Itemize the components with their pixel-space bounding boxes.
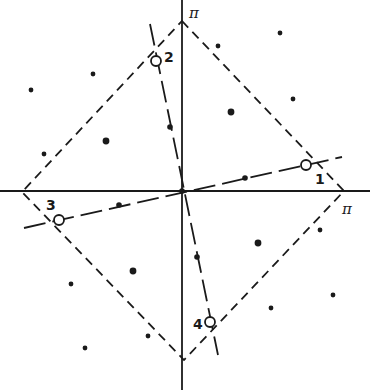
lattice-dot [146, 334, 151, 339]
diagram-canvas: 1234 π π [0, 0, 370, 390]
lattice-dot [42, 152, 47, 157]
point-label-3: 3 [46, 197, 56, 213]
lattice-dot [291, 97, 296, 102]
line-dot [167, 124, 173, 130]
open-circle-1 [301, 160, 311, 170]
open-circle-2 [151, 56, 161, 66]
line-dot [194, 254, 200, 260]
lattice-dot [228, 109, 235, 116]
point-label-4: 4 [193, 316, 203, 332]
lattice-dot [331, 293, 336, 298]
lattice-dot [269, 306, 274, 311]
lattice-dot [278, 31, 283, 36]
line-dot [242, 175, 248, 181]
lattice-dot [103, 138, 110, 145]
lattice-dot [318, 228, 323, 233]
lattice-dot [91, 72, 96, 77]
line-dot [116, 202, 122, 208]
point-label-2: 2 [164, 49, 174, 65]
lattice-dot [83, 346, 88, 351]
open-circle-3 [54, 215, 64, 225]
point-label-1: 1 [315, 171, 325, 187]
lattice-dot [255, 240, 262, 247]
pi-label-top: π [188, 4, 200, 22]
lattice-dot [69, 282, 74, 287]
lattice-dot [29, 88, 34, 93]
lattice-dot [216, 44, 221, 49]
pi-label-right: π [341, 200, 353, 218]
lattice-dot [130, 268, 137, 275]
open-circle-4 [205, 317, 215, 327]
line-dot [179, 188, 185, 194]
